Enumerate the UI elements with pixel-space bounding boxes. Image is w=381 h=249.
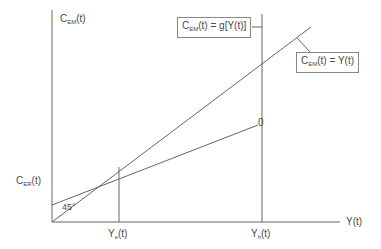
- 45-degree-line: [52, 27, 311, 222]
- yh-label-main: Y: [251, 228, 258, 239]
- point-marker: 0: [258, 117, 264, 129]
- y-axis-label: CEM(t): [60, 13, 86, 28]
- consumption-label-sub: EM: [189, 26, 198, 32]
- ye-label-main: Y: [108, 228, 115, 239]
- y-axis-label-sub: EM: [67, 19, 76, 25]
- high-income-label: Yh(t): [251, 228, 270, 243]
- identity-label-suffix: (t) = Y(t): [317, 55, 354, 66]
- x-axis-label: Y(t): [346, 216, 362, 228]
- identity-box-connector: [297, 38, 310, 52]
- intercept-label-suffix: (t): [32, 175, 41, 186]
- intercept-label: CER(t): [16, 175, 41, 190]
- intercept-label-sub: ER: [23, 181, 31, 187]
- consumption-function-label: CEM(t) = g[Y(t)]: [177, 17, 251, 38]
- equilibrium-income-label: Ye(t): [108, 228, 127, 243]
- y-axis-label-suffix: (t): [76, 13, 85, 24]
- angle-arc: [58, 215, 62, 217]
- yh-label-suffix: (t): [261, 228, 270, 239]
- identity-line-label: CEM(t) = Y(t): [296, 52, 359, 73]
- consumption-function-line: [52, 125, 258, 205]
- ye-label-suffix: (t): [118, 228, 127, 239]
- identity-label-sub: EM: [308, 61, 317, 67]
- angle-label: 45°: [62, 201, 76, 213]
- consumption-label-suffix: (t) = g[Y(t)]: [198, 20, 246, 31]
